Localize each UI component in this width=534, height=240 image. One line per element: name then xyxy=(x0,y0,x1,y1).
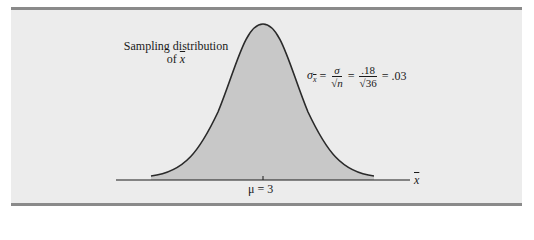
equals-1: = xyxy=(319,69,326,84)
distribution-annotation: Sampling distribution of x xyxy=(117,40,235,66)
x-axis-label: x xyxy=(414,174,419,187)
formula-lhs: σx xyxy=(307,68,316,84)
frac2-denominator: √36 xyxy=(358,77,379,89)
fraction-values: .18 √36 xyxy=(358,64,379,89)
xbar-symbol: x xyxy=(180,52,185,66)
standard-error-formula: σx = σ √n = .18 √36 = .03 xyxy=(307,64,406,89)
equals-2: = xyxy=(348,69,355,84)
annotation-line2: of x xyxy=(117,53,235,66)
annotation-of: of xyxy=(167,52,180,66)
formula-result: = .03 xyxy=(382,69,407,84)
frac1-denominator: √n xyxy=(329,77,345,89)
fraction-sigma-over-root-n: σ √n xyxy=(329,64,345,89)
frac2-numerator: .18 xyxy=(359,64,377,77)
sigma-subscript: x xyxy=(313,76,317,85)
mean-label: μ = 3 xyxy=(248,183,273,196)
frac1-numerator: σ xyxy=(332,64,341,77)
